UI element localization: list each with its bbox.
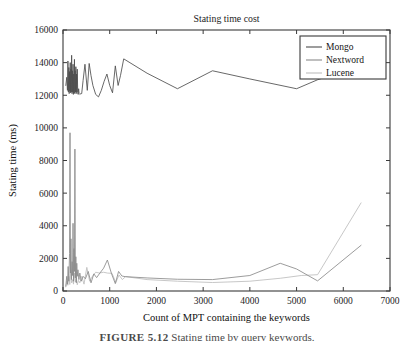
- x-tick-label: 4000: [240, 296, 259, 306]
- y-tick-label: 2000: [39, 254, 58, 264]
- x-tick-label: 6000: [334, 296, 353, 306]
- y-tick-label: 4000: [39, 221, 58, 231]
- legend-label-nextword: Nextword: [326, 55, 364, 65]
- y-tick-label: 14000: [34, 58, 58, 68]
- y-tick-label: 6000: [39, 189, 58, 199]
- x-tick-label: 5000: [287, 296, 306, 306]
- x-tick-label: 7000: [381, 296, 400, 306]
- y-tick-label: 16000: [34, 25, 58, 35]
- figure-caption-text: Stating time by query keywords.: [171, 331, 314, 341]
- y-tick-label: 0: [53, 286, 58, 296]
- x-axis-title: Count of MPT containing the keywords: [143, 312, 310, 323]
- x-tick-label: 2000: [147, 296, 166, 306]
- legend-label-mongo: Mongo: [326, 42, 354, 52]
- series-line-lucene: [66, 203, 361, 287]
- series-line-nextword: [66, 133, 361, 286]
- series-group: [66, 55, 361, 287]
- legend-label-lucene: Lucene: [326, 68, 354, 78]
- y-tick-label: 8000: [39, 156, 58, 166]
- y-axis-title: Stating time (ms): [7, 124, 19, 197]
- figure-caption: FIGURE 5.12 Stating time by query keywor…: [0, 331, 414, 341]
- y-tick-label: 12000: [34, 91, 58, 101]
- figure-caption-label: FIGURE 5.12: [99, 331, 168, 341]
- x-tick-label: 3000: [194, 296, 213, 306]
- chart-title: Stating time cost: [194, 13, 260, 24]
- x-tick-label: 1000: [100, 296, 119, 306]
- y-tick-label: 10000: [34, 123, 58, 133]
- x-tick-label: 0: [61, 296, 66, 306]
